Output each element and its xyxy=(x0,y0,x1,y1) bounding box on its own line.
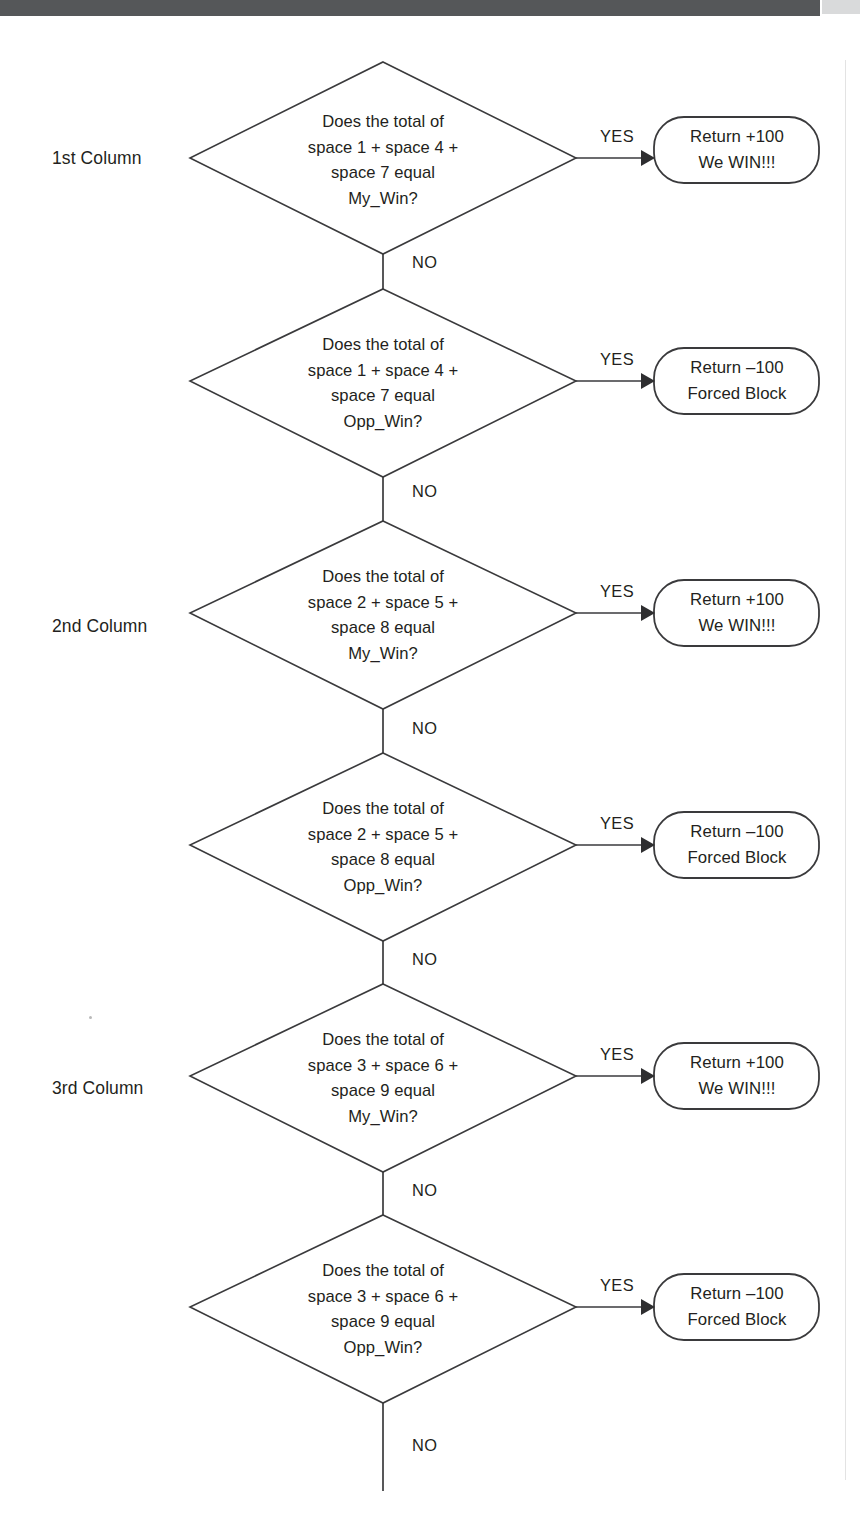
terminal-2-text: Return –100 Forced Block xyxy=(647,355,827,407)
yes-label-6: YES xyxy=(600,1276,634,1295)
terminal-1-line-1: Return +100 xyxy=(647,124,827,150)
terminal-2-line-1: Return –100 xyxy=(647,355,827,381)
column-label-1: 1st Column xyxy=(52,148,142,169)
decision-4-text: Does the total of space 2 + space 5 + sp… xyxy=(233,796,533,898)
no-label-3: NO xyxy=(412,719,437,738)
decision-4-line-1: Does the total of xyxy=(233,796,533,822)
decision-3-line-4: My_Win? xyxy=(233,641,533,667)
column-label-2: 2nd Column xyxy=(52,616,147,637)
terminal-1-text: Return +100 We WIN!!! xyxy=(647,124,827,176)
decision-3-line-3: space 8 equal xyxy=(233,615,533,641)
decision-1-line-3: space 7 equal xyxy=(233,160,533,186)
decision-6-line-3: space 9 equal xyxy=(233,1309,533,1335)
terminal-3-line-1: Return +100 xyxy=(647,587,827,613)
decision-1-line-4: My_Win? xyxy=(233,186,533,212)
terminal-4-line-2: Forced Block xyxy=(647,845,827,871)
terminal-4-line-1: Return –100 xyxy=(647,819,827,845)
terminal-6-line-2: Forced Block xyxy=(647,1307,827,1333)
decision-2-line-3: space 7 equal xyxy=(233,383,533,409)
no-label-2: NO xyxy=(412,482,437,501)
yes-label-4: YES xyxy=(600,814,634,833)
terminal-3-text: Return +100 We WIN!!! xyxy=(647,587,827,639)
terminal-6-line-1: Return –100 xyxy=(647,1281,827,1307)
decision-4-line-2: space 2 + space 5 + xyxy=(233,822,533,848)
decision-6-line-2: space 3 + space 6 + xyxy=(233,1284,533,1310)
yes-label-2: YES xyxy=(600,350,634,369)
decision-6-line-1: Does the total of xyxy=(233,1258,533,1284)
decision-5-line-3: space 9 equal xyxy=(233,1078,533,1104)
decision-6-line-4: Opp_Win? xyxy=(233,1335,533,1361)
decision-5-text: Does the total of space 3 + space 6 + sp… xyxy=(233,1027,533,1129)
no-label-4: NO xyxy=(412,950,437,969)
decision-2-line-1: Does the total of xyxy=(233,332,533,358)
terminal-4-text: Return –100 Forced Block xyxy=(647,819,827,871)
decision-2-line-4: Opp_Win? xyxy=(233,409,533,435)
decision-1-line-1: Does the total of xyxy=(233,109,533,135)
decision-2-text: Does the total of space 1 + space 4 + sp… xyxy=(233,332,533,434)
decision-6-text: Does the total of space 3 + space 6 + sp… xyxy=(233,1258,533,1360)
decision-5-line-4: My_Win? xyxy=(233,1104,533,1130)
decision-5-line-2: space 3 + space 6 + xyxy=(233,1053,533,1079)
terminal-5-line-1: Return +100 xyxy=(647,1050,827,1076)
decision-1-line-2: space 1 + space 4 + xyxy=(233,135,533,161)
no-label-1: NO xyxy=(412,253,437,272)
yes-label-1: YES xyxy=(600,127,634,146)
terminal-2-line-2: Forced Block xyxy=(647,381,827,407)
terminal-5-line-2: We WIN!!! xyxy=(647,1076,827,1102)
terminal-3-line-2: We WIN!!! xyxy=(647,613,827,639)
decision-3-line-2: space 2 + space 5 + xyxy=(233,590,533,616)
decision-5-line-1: Does the total of xyxy=(233,1027,533,1053)
no-label-6: NO xyxy=(412,1436,437,1455)
no-label-5: NO xyxy=(412,1181,437,1200)
decision-4-line-3: space 8 equal xyxy=(233,847,533,873)
yes-label-5: YES xyxy=(600,1045,634,1064)
decision-2-line-2: space 1 + space 4 + xyxy=(233,358,533,384)
decision-3-text: Does the total of space 2 + space 5 + sp… xyxy=(233,564,533,666)
column-label-3: 3rd Column xyxy=(52,1078,143,1099)
yes-label-3: YES xyxy=(600,582,634,601)
terminal-1-line-2: We WIN!!! xyxy=(647,150,827,176)
decision-1-text: Does the total of space 1 + space 4 + sp… xyxy=(233,109,533,211)
terminal-5-text: Return +100 We WIN!!! xyxy=(647,1050,827,1102)
decision-3-line-1: Does the total of xyxy=(233,564,533,590)
terminal-6-text: Return –100 Forced Block xyxy=(647,1281,827,1333)
flowchart-page: 1st Column 2nd Column 3rd Column Does th… xyxy=(0,0,860,1537)
decision-4-line-4: Opp_Win? xyxy=(233,873,533,899)
